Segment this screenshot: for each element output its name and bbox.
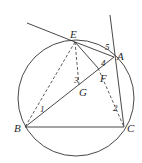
angle-5: 5 xyxy=(105,42,110,52)
angle-3: 3 xyxy=(73,75,79,85)
dashed-EB xyxy=(25,42,75,127)
angle-1: 1 xyxy=(40,104,45,114)
label-A: A xyxy=(116,50,124,62)
angle-2: 2 xyxy=(113,103,118,113)
label-F: F xyxy=(99,72,107,84)
label-B: B xyxy=(14,122,21,134)
segment-EF xyxy=(75,42,98,68)
label-G: G xyxy=(79,86,87,98)
label-E: E xyxy=(69,28,77,40)
tangent-line xyxy=(27,23,75,42)
geometry-diagram: E A B C F G 1 2 3 4 5 xyxy=(0,0,142,163)
angle-4: 4 xyxy=(101,58,106,68)
label-C: C xyxy=(127,122,135,134)
